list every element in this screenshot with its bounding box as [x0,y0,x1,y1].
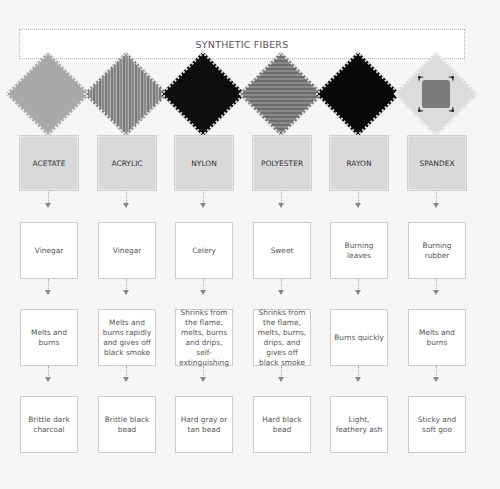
fabric-swatch [397,51,475,137]
smell-text: Sweet [271,246,294,256]
burn-behavior-box: Melts and burns [20,309,78,366]
arrow-down-icon [200,203,206,208]
fiber-column-rayon: RAYON Burning leaves Burns quickly Light… [319,0,397,489]
arrow-down-icon [433,290,439,295]
polyester-swatch-icon [239,52,324,137]
arrow-down-icon [278,377,284,382]
arrow-down-icon [278,203,284,208]
burn-behavior-text: Shrinks from the flame, melts, burns, dr… [256,308,308,368]
fiber-name: SPANDEX [419,159,454,168]
acrylic-swatch-icon [84,52,169,137]
fiber-name-label: POLYESTER [253,136,311,190]
arrow-down-icon [355,377,361,382]
fiber-name: RAYON [346,159,371,168]
smell-box: Burning rubber [408,222,466,279]
fabric-swatch [87,51,165,137]
residue-text: Brittle black bead [101,415,153,435]
smell-box: Sweet [253,222,311,279]
arrow-down-icon [278,290,284,295]
fiber-column-acetate: ACETATE Vinegar Melts and burns Brittle … [9,0,87,489]
fiber-column-acrylic: ACRYLIC Vinegar Melts and burns rapidly … [87,0,165,489]
arrow-down-icon [200,377,206,382]
burn-behavior-box: Burns quickly [330,309,388,366]
burn-behavior-text: Melts and burns [411,328,463,348]
smell-text: Vinegar [113,246,141,256]
stretch-arrows-icon [406,64,466,124]
residue-box: Hard black bead [253,396,311,453]
burn-behavior-box: Shrinks from the flame, melts, burns and… [175,309,233,366]
acetate-swatch-icon [6,52,91,137]
fiber-name-label: ACETATE [20,136,78,190]
residue-text: Light, feathery ash [333,415,385,435]
burn-behavior-box: Shrinks from the flame, melts, burns, dr… [253,309,311,366]
fiber-column-spandex: SPANDEX Burning rubber Melts and burns S… [397,0,475,489]
fabric-swatch [319,51,397,137]
rayon-swatch-icon [316,52,401,137]
burn-behavior-text: Shrinks from the flame, melts, burns and… [178,308,230,368]
fabric-swatch [164,51,242,137]
residue-box: Sticky and soft goo [408,396,466,453]
arrow-down-icon [45,290,51,295]
arrow-down-icon [123,290,129,295]
fiber-name-label: ACRYLIC [98,136,156,190]
fabric-swatch [9,51,87,137]
fiber-name: POLYESTER [261,159,303,168]
burn-behavior-text: Melts and burns rapidly and gives off bl… [101,318,153,358]
smell-text: Celery [192,246,216,256]
smell-text: Burning rubber [411,241,463,261]
fiber-name-label: SPANDEX [408,136,466,190]
fiber-name: ACRYLIC [111,159,142,168]
arrow-down-icon [45,203,51,208]
arrow-down-icon [45,377,51,382]
arrow-down-icon [433,377,439,382]
residue-text: Brittle dark charcoal [23,415,75,435]
arrow-down-icon [123,377,129,382]
arrow-down-icon [355,203,361,208]
fiber-name-label: RAYON [330,136,388,190]
residue-box: Light, feathery ash [330,396,388,453]
arrow-down-icon [200,290,206,295]
fiber-name-label: NYLON [175,136,233,190]
residue-box: Brittle black bead [98,396,156,453]
residue-text: Hard gray or tan bead [178,415,230,435]
burn-behavior-text: Burns quickly [334,333,384,343]
fabric-swatch [242,51,320,137]
smell-text: Vinegar [35,246,63,256]
arrow-down-icon [433,203,439,208]
arrow-down-icon [123,203,129,208]
residue-box: Hard gray or tan bead [175,396,233,453]
smell-box: Burning leaves [330,222,388,279]
smell-box: Celery [175,222,233,279]
burn-behavior-box: Melts and burns [408,309,466,366]
burn-behavior-text: Melts and burns [23,328,75,348]
fiber-name: NYLON [191,159,217,168]
smell-text: Burning leaves [333,241,385,261]
arrow-down-icon [355,290,361,295]
fiber-name: ACETATE [33,159,66,168]
residue-text: Hard black bead [256,415,308,435]
smell-box: Vinegar [20,222,78,279]
fiber-column-nylon: NYLON Celery Shrinks from the flame, mel… [164,0,242,489]
nylon-swatch-icon [161,52,246,137]
smell-box: Vinegar [98,222,156,279]
fiber-column-polyester: POLYESTER Sweet Shrinks from the flame, … [242,0,320,489]
residue-text: Sticky and soft goo [411,415,463,435]
residue-box: Brittle dark charcoal [20,396,78,453]
burn-behavior-box: Melts and burns rapidly and gives off bl… [98,309,156,366]
